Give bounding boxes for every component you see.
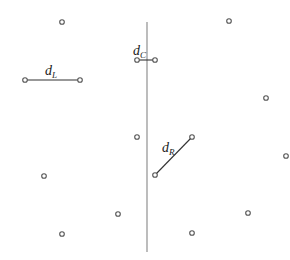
label-d-r: dR xyxy=(162,140,175,157)
segment-endpoint-dR-1 xyxy=(190,135,195,140)
point-p8 xyxy=(60,232,65,237)
label-d-c: dC xyxy=(133,43,147,60)
point-p7 xyxy=(116,212,121,217)
point-p10 xyxy=(190,231,195,236)
point-p4 xyxy=(284,154,289,159)
segment-endpoint-dL-0 xyxy=(23,78,28,83)
point-p2 xyxy=(227,19,232,24)
label-d-l: dL xyxy=(45,63,57,80)
point-p9 xyxy=(246,211,251,216)
segment-endpoint-dR-0 xyxy=(153,173,158,178)
segment-endpoint-dL-1 xyxy=(78,78,83,83)
point-p3 xyxy=(264,96,269,101)
segment-endpoint-dC-0 xyxy=(135,58,140,63)
point-p6 xyxy=(42,174,47,179)
closest-pair-diagram: dL dC dR xyxy=(0,0,290,260)
segment-endpoint-dC-1 xyxy=(153,58,158,63)
point-p5 xyxy=(135,135,140,140)
point-p1 xyxy=(60,20,65,25)
points xyxy=(23,19,289,237)
